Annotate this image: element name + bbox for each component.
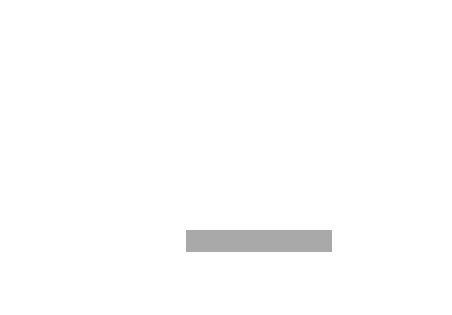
distribution-diagram xyxy=(0,0,452,315)
wholesaler-node xyxy=(186,230,332,252)
wholesaler-box xyxy=(186,230,332,252)
